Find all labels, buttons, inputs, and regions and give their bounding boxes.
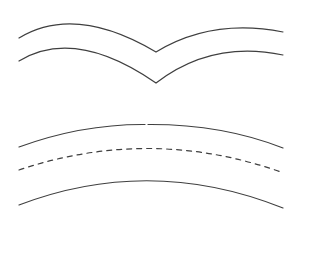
- arc-top-left-segment: [19, 124, 145, 147]
- wing-curve-lower: [19, 48, 283, 83]
- arc-middle-dashed: [19, 148, 281, 172]
- arc-bottom: [19, 181, 283, 208]
- diagram-canvas: [0, 0, 310, 255]
- arc-top-right-segment: [148, 124, 283, 148]
